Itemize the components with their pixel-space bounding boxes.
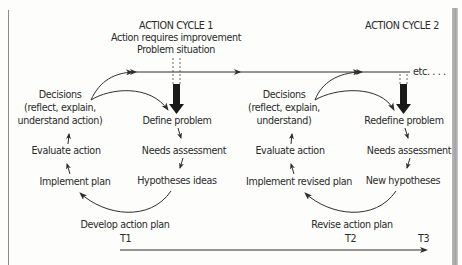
cycle1-problem-arrow: [169, 84, 184, 114]
cycle1-decisions-line-3: understand action): [18, 115, 103, 127]
continuation-etc: etc. . . .: [413, 66, 446, 78]
c2-needs-to-hyp-arrow: [407, 158, 410, 168]
timeline-t2: T2: [345, 233, 356, 245]
cycle1-heading: ACTION CYCLE 1: [139, 20, 213, 32]
decisions-2-to-define-arrow: [315, 91, 394, 110]
c2-implement-to-evaluate-arrow: [291, 164, 294, 174]
cycle2-decisions-line-2: (reflect, explain,: [248, 102, 320, 114]
decisions-2-to-line-arrow: [315, 72, 360, 100]
cycle1-needs-assessment: Needs assessment: [142, 145, 226, 157]
timeline-t1: T1: [120, 233, 131, 245]
decisions-1-to-define-arrow: [91, 91, 168, 110]
c1-evaluate-to-decisions-arrow: [68, 134, 69, 144]
cycle1-hypotheses: Hypotheses ideas: [137, 175, 216, 187]
cycle2-revise-plan: Revise action plan: [311, 219, 392, 231]
cycle2-implement-revised-plan: Implement revised plan: [246, 176, 352, 188]
cycle1-subheading-2: Problem situation: [137, 44, 215, 56]
cycle2-needs-assessment: Needs assessment: [367, 145, 451, 157]
cycle2-problem-arrow: [396, 84, 411, 114]
cycle1-develop-plan: Develop action plan: [80, 219, 169, 231]
cycle2-new-hypotheses: New hypotheses: [366, 175, 440, 187]
c1-implement-to-evaluate-arrow: [67, 164, 70, 174]
decisions-1-to-line-arrow: [91, 72, 133, 100]
cycle1-implement-plan: Implement plan: [40, 176, 111, 188]
diagram-page: ACTION CYCLE 1 Action requires improveme…: [0, 0, 462, 265]
c2-revise-plan-arc: [305, 191, 396, 212]
c1-needs-to-hyp-arrow: [180, 158, 183, 168]
cycle2-heading: ACTION CYCLE 2: [365, 20, 439, 32]
cycle1-decisions-line-1: Decisions: [39, 89, 82, 101]
cycle2-decisions-line-3: understand): [257, 115, 312, 127]
c1-develop-plan-arc: [80, 191, 171, 212]
timeline-t3: T3: [418, 233, 429, 245]
cycle1-decisions-line-2: (reflect, explain,: [24, 102, 96, 114]
c2-define-to-needs-arrow: [405, 128, 408, 138]
cycle2-decisions-line-1: Decisions: [263, 89, 306, 101]
cycle2-redefine-problem: Redefine problem: [364, 115, 443, 127]
cycle1-subheading-1: Action requires improvement: [111, 32, 241, 44]
cycle2-evaluate-action: Evaluate action: [255, 145, 324, 157]
c2-evaluate-to-decisions-arrow: [291, 134, 292, 144]
cycle1-define-problem: Define problem: [142, 115, 211, 127]
cycle1-evaluate-action: Evaluate action: [31, 145, 100, 157]
c1-define-to-needs-arrow: [178, 128, 181, 138]
